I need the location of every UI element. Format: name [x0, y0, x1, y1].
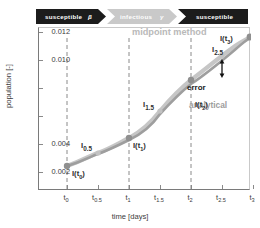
ytick-label-0004: 0.004 — [52, 139, 71, 148]
point-label-I-05: I0.5 — [81, 141, 92, 152]
xtick-label-t1: t1 — [125, 193, 130, 203]
xtick-label-t2: t2 — [187, 193, 192, 203]
banner-label-susceptible-2: susceptible — [196, 9, 233, 24]
point-label-I-25: I2.5 — [212, 45, 223, 56]
point-label-I-t2: I(t2) — [195, 100, 208, 111]
marker-I-t1 — [126, 135, 132, 141]
xtick-label-t25: t2.5 — [216, 193, 226, 203]
xtick-label-t0: t0 — [63, 193, 68, 203]
banner-label-infectious: infectious — [120, 9, 152, 24]
point-label-I-t1: I(t1) — [133, 141, 146, 152]
banner-label-susceptible-1: susceptible — [45, 9, 82, 24]
figure-root: susceptible β infectious γ susceptible — [0, 0, 260, 228]
annotation-error: error — [187, 83, 206, 92]
xtick-mark-t3 — [253, 185, 254, 189]
marker-I-15 — [157, 108, 162, 113]
point-label-I-t0: I(t0) — [72, 169, 85, 180]
annotation-midpoint-method: midpoint method — [132, 27, 207, 37]
xtick-label-t3: t3 — [249, 193, 254, 203]
xtick-label-t15: t1.5 — [154, 193, 164, 203]
process-banner-labels: susceptible β infectious γ susceptible — [36, 9, 248, 24]
point-label-I-15: I1.5 — [143, 100, 154, 111]
marker-I-05 — [95, 150, 100, 155]
banner-rate-gamma: γ — [160, 9, 164, 24]
banner-rate-beta: β — [88, 9, 92, 24]
x-axis-label: time [days] — [0, 212, 260, 221]
ytick-label-0010: 0.010 — [52, 55, 71, 64]
ytick-label-0002: 0.002 — [52, 167, 71, 176]
ytick-label-0012: 0.012 — [52, 27, 71, 36]
xtick-label-t05: t0.5 — [92, 193, 102, 203]
y-axis-label: population [-] — [4, 64, 13, 108]
point-label-I-t3: I(t3) — [220, 34, 233, 45]
